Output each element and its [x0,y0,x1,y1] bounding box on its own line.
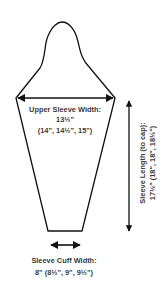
upper-width-label: Upper Sleeve Width: [29,105,101,114]
sleeve-length-label: Sleeve Length (to cap): [138,122,147,203]
upper-width-value: 13½" [56,115,74,124]
sleeve-diagram: Upper Sleeve Width: 13½" (14", 14½", 15"… [0,0,167,296]
cuff-width-values: 8" (8½", 9", 9½") [35,268,94,277]
cuff-width-label: Sleeve Cuff Width: [31,256,96,265]
upper-width-sizes: (14", 14½", 15") [38,126,93,135]
sleeve-length-values: 17½" (18", 18", 18½") [148,125,157,200]
